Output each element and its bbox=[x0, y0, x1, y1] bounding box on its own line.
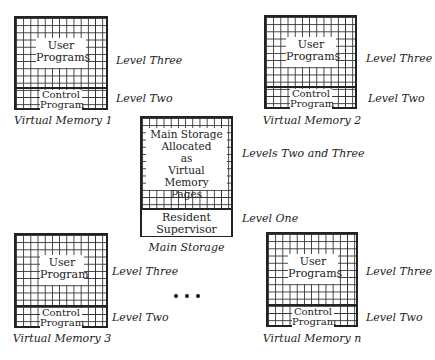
control-program-label: Control Program bbox=[292, 307, 334, 327]
label-line: Virtual Memory bbox=[146, 164, 227, 188]
label-line: as bbox=[146, 152, 227, 164]
resident-supervisor-label: Resident Supervisor bbox=[142, 212, 231, 236]
virtual-memory-n-box: User Programs Control Program bbox=[266, 232, 358, 327]
user-programs-label: User Programs bbox=[286, 37, 336, 67]
vm2-level-two: Level Two bbox=[368, 92, 425, 105]
user-programs-label: User Programs bbox=[288, 254, 338, 284]
ellipsis-dot bbox=[174, 294, 178, 298]
virtual-memory-1-box: User Programs Control Program bbox=[14, 16, 108, 110]
label-line: Programs bbox=[36, 52, 86, 64]
ellipsis bbox=[170, 292, 210, 302]
vmn-caption: Virtual Memory n bbox=[262, 332, 362, 345]
virtual-memory-2-box: User Programs Control Program bbox=[264, 15, 357, 109]
vm3-level-two: Level Two bbox=[112, 311, 169, 324]
vm1-caption: Virtual Memory 1 bbox=[14, 114, 108, 127]
label-line: Supervisor bbox=[142, 224, 231, 236]
control-program-label: Control Program bbox=[40, 308, 82, 328]
vmn-level-two: Level Two bbox=[366, 311, 423, 324]
vmn-level-three: Level Three bbox=[366, 265, 432, 278]
main-storage-caption: Main Storage bbox=[140, 241, 233, 254]
main-levels-two-three: Levels Two and Three bbox=[242, 147, 365, 160]
vm3-caption: Virtual Memory 3 bbox=[12, 332, 112, 345]
vm2-level-three: Level Three bbox=[366, 52, 432, 65]
label-line: Program bbox=[40, 269, 84, 281]
label-line: Program bbox=[40, 318, 82, 328]
user-program-label: User Program bbox=[40, 255, 84, 285]
main-storage-allocated-label: Main Storage Allocated as Virtual Memory… bbox=[146, 128, 227, 190]
control-program-label: Control Program bbox=[40, 90, 82, 110]
vm1-level-three: Level Three bbox=[116, 54, 182, 67]
label-line: Program bbox=[292, 317, 334, 327]
control-program-label: Control Program bbox=[290, 89, 332, 109]
vm1-level-two: Level Two bbox=[116, 92, 173, 105]
ellipsis-dot bbox=[185, 294, 189, 298]
resident-supervisor-area: Resident Supervisor bbox=[142, 208, 231, 235]
label-line: Pages bbox=[146, 188, 227, 200]
label-line: Allocated bbox=[146, 140, 227, 152]
virtual-memory-3-box: User Program Control Program bbox=[14, 233, 108, 328]
ellipsis-dot bbox=[196, 294, 200, 298]
label-line: Program bbox=[40, 100, 82, 110]
vm2-caption: Virtual Memory 2 bbox=[262, 114, 362, 127]
label-line: Main Storage bbox=[146, 128, 227, 140]
main-storage-box: Main Storage Allocated as Virtual Memory… bbox=[140, 116, 233, 237]
label-line: Program bbox=[290, 99, 332, 109]
main-level-one: Level One bbox=[242, 212, 298, 225]
label-line: Programs bbox=[288, 268, 338, 280]
user-programs-label: User Programs bbox=[36, 38, 86, 68]
label-line: Programs bbox=[286, 51, 336, 63]
vm3-level-three: Level Three bbox=[112, 265, 178, 278]
